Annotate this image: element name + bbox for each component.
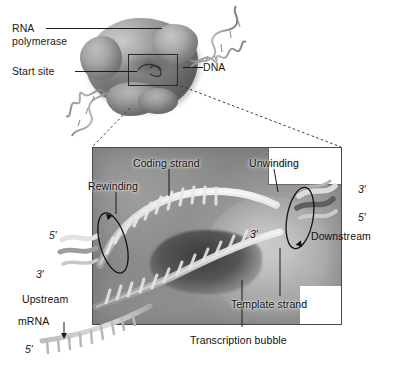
mrna-label: mRNA — [18, 315, 49, 328]
bubble-shadow — [150, 230, 262, 294]
coding-left-3-prime-label: 3′ — [36, 268, 44, 280]
template-strand-label: Template strand — [231, 298, 307, 311]
dna-leader — [183, 67, 203, 68]
upstream-label: Upstream — [22, 293, 68, 306]
transcription-bubble-label: Transcription bubble — [190, 334, 287, 347]
downstream-label: Downstream — [311, 230, 371, 243]
dna-label: DNA — [203, 61, 225, 74]
start-site-leader — [75, 71, 137, 72]
template-mid-3-prime-label: 3′ — [250, 228, 258, 240]
mrna-arrowhead — [61, 333, 67, 339]
downstream-3-prime-label: 3′ — [358, 183, 366, 195]
rna-polymerase-leader — [46, 28, 162, 29]
rna-polymerase-inset: RNA polymerase Start site DNA — [0, 0, 399, 140]
start-site-box — [128, 54, 178, 86]
mrna-arrowhead-group — [61, 333, 67, 339]
inset-dna-strands — [0, 0, 399, 140]
panel-notch-edge-h — [268, 184, 342, 185]
transcription-figure: RNA polymerase Start site DNA — [0, 0, 399, 372]
coding-strand-label: Coding strand — [133, 157, 200, 170]
unwinding-label: Unwinding — [249, 157, 299, 170]
dna-helix-downstream — [190, 6, 246, 68]
start-site-label: Start site — [12, 65, 54, 78]
rewinding-label: Rewinding — [88, 180, 138, 193]
downstream-5-prime-label: 5′ — [358, 211, 366, 223]
rna-polymerase-label-line1: RNA — [12, 22, 34, 35]
rna-polymerase-label-line2: polymerase — [12, 35, 67, 48]
coding-left-5-prime-label: 5′ — [49, 229, 57, 241]
mrna-5-prime-label: 5′ — [25, 343, 33, 355]
